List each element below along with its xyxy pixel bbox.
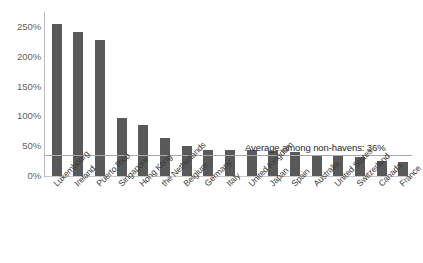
x-axis-category-label: Spain: [290, 167, 311, 188]
x-axis-category-label: Italy: [225, 171, 242, 188]
